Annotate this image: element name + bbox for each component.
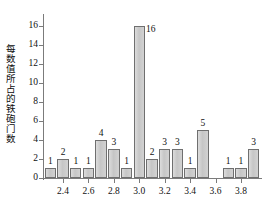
x-axis-tick (139, 179, 140, 183)
y-axis-tick (39, 178, 44, 179)
x-axis-tick (88, 179, 89, 183)
bar (146, 159, 157, 178)
y-axis-tick-label: 2 (14, 154, 38, 164)
bar (70, 168, 81, 178)
bar (121, 168, 132, 178)
x-axis-tick-label: 2.6 (75, 186, 101, 196)
x-axis-line (43, 178, 262, 179)
y-axis-tick-label: 10 (14, 78, 38, 88)
bar (184, 168, 195, 178)
plot-area: 12114311623315113 (44, 16, 260, 178)
bar-value-label: 3 (105, 138, 123, 148)
y-axis-tick-label: 4 (14, 135, 38, 145)
x-axis-tick-label: 3.8 (228, 186, 254, 196)
y-axis-tick-label: 6 (14, 116, 38, 126)
x-axis-tick (216, 179, 217, 183)
histogram-chart: 每数值所占的铁砲门数 0246810121416 2.42.62.83.03.2… (0, 0, 266, 210)
x-axis-tick (165, 179, 166, 183)
y-axis-title: 每数值所占的铁砲门数 (2, 14, 18, 174)
bar (83, 168, 94, 178)
bar (223, 168, 234, 178)
bar (235, 168, 246, 178)
bar (197, 130, 208, 178)
y-axis-tick-label: 16 (14, 21, 38, 31)
bar-value-label: 3 (168, 138, 186, 148)
x-axis-tick-label: 3.0 (126, 186, 152, 196)
x-axis-tick (241, 179, 242, 183)
x-axis-tick-label: 2.4 (50, 186, 76, 196)
x-axis-tick-label: 3.6 (203, 186, 229, 196)
x-axis-tick (114, 179, 115, 183)
x-axis-tick (190, 179, 191, 183)
bar-value-label: 4 (92, 129, 110, 139)
y-axis-tick-label: 12 (14, 59, 38, 69)
x-axis-tick-label: 3.4 (177, 186, 203, 196)
y-axis-tick-label: 8 (14, 97, 38, 107)
x-axis-tick-label: 2.8 (101, 186, 127, 196)
y-axis-tick-label: 0 (14, 173, 38, 183)
x-axis-tick (63, 179, 64, 183)
bar (45, 168, 56, 178)
x-axis-tick-label: 3.2 (152, 186, 178, 196)
bar-value-label: 3 (245, 138, 263, 148)
bar (159, 149, 170, 178)
bar (248, 149, 259, 178)
bar-value-label: 16 (146, 25, 166, 35)
bar-value-label: 2 (54, 148, 72, 158)
y-axis-tick-label: 14 (14, 40, 38, 50)
bar-value-label: 5 (194, 119, 212, 129)
